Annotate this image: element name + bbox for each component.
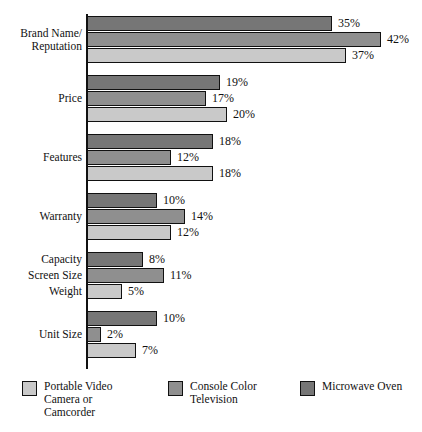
bar[interactable] <box>87 48 346 63</box>
bar-row: 17% <box>87 91 422 106</box>
bar[interactable] <box>87 32 381 47</box>
bar[interactable] <box>87 16 332 31</box>
bar[interactable] <box>87 268 164 283</box>
legend-swatch-icon <box>300 381 315 396</box>
bar-group-label: Warranty <box>0 210 82 223</box>
bar-row: 14% <box>87 209 422 224</box>
bar[interactable] <box>87 150 171 165</box>
bar-row: 5% <box>87 284 422 299</box>
bar-group-label: Price <box>0 92 82 105</box>
bar-value-label: 14% <box>191 209 213 224</box>
bar-value-label: 10% <box>163 193 185 208</box>
bar-row: 10% <box>87 193 422 208</box>
bar[interactable] <box>87 327 101 342</box>
bar-row: 37% <box>87 48 422 63</box>
bar-row: 11% <box>87 268 422 283</box>
bar-row-label: Screen Size <box>0 268 82 283</box>
bar[interactable] <box>87 75 220 90</box>
bar-row-label: Weight <box>0 284 82 299</box>
bar-value-label: 2% <box>107 327 123 342</box>
bar-row: 8% <box>87 252 422 267</box>
bar[interactable] <box>87 107 227 122</box>
bar-row: 12% <box>87 225 422 240</box>
bar-row: 19% <box>87 75 422 90</box>
bar-group: Price19%17%20% <box>0 75 422 122</box>
bar-value-label: 42% <box>387 32 409 47</box>
bar[interactable] <box>87 209 185 224</box>
legend-label: Microwave Oven <box>322 380 402 393</box>
chart-legend: Portable Video Camera or CamcorderConsol… <box>0 380 422 428</box>
bar-row: 7% <box>87 343 422 358</box>
bar[interactable] <box>87 343 136 358</box>
bar-row: 35% <box>87 16 422 31</box>
bar-row: 2% <box>87 327 422 342</box>
bar[interactable] <box>87 166 213 181</box>
bar-value-label: 5% <box>128 284 144 299</box>
cropped-caption-sliver <box>18 426 418 432</box>
bar[interactable] <box>87 193 157 208</box>
bar[interactable] <box>87 311 157 326</box>
bar-group-label: Brand Name/ Reputation <box>0 27 82 53</box>
bar-value-label: 11% <box>170 268 192 283</box>
legend-item[interactable]: Microwave Oven <box>300 380 422 396</box>
legend-label: Console Color Television <box>190 380 257 406</box>
bar-group: Features18%12%18% <box>0 134 422 181</box>
legend-swatch-icon <box>22 381 37 396</box>
legend-label: Portable Video Camera or Camcorder <box>44 380 112 419</box>
bar-group: Brand Name/ Reputation35%42%37% <box>0 16 422 63</box>
bar-group-label: Unit Size <box>0 328 82 341</box>
bar-row: 12% <box>87 150 422 165</box>
legend-item[interactable]: Console Color Television <box>168 380 298 406</box>
bar-value-label: 19% <box>226 75 248 90</box>
grouped-bar-chart: Brand Name/ Reputation35%42%37%Price19%1… <box>0 0 422 432</box>
bar-value-label: 12% <box>177 150 199 165</box>
bar-row: 18% <box>87 166 422 181</box>
bar-value-label: 12% <box>177 225 199 240</box>
bar-row: 10% <box>87 311 422 326</box>
bar[interactable] <box>87 252 143 267</box>
bar-group: CapacityScreen SizeWeight8%11%5% <box>0 252 422 299</box>
bar-value-label: 37% <box>352 48 374 63</box>
bar-group-label: Features <box>0 151 82 164</box>
bar[interactable] <box>87 225 171 240</box>
legend-item[interactable]: Portable Video Camera or Camcorder <box>22 380 167 419</box>
bar[interactable] <box>87 284 122 299</box>
bar-value-label: 10% <box>163 311 185 326</box>
bar-row-label: Capacity <box>0 252 82 267</box>
bar-value-label: 7% <box>142 343 158 358</box>
plot-area: Brand Name/ Reputation35%42%37%Price19%1… <box>0 0 422 374</box>
bar-row: 20% <box>87 107 422 122</box>
legend-swatch-icon <box>168 381 183 396</box>
bar-group: Unit Size10%2%7% <box>0 311 422 358</box>
bar-value-label: 18% <box>219 166 241 181</box>
bar-row: 42% <box>87 32 422 47</box>
bar-row: 18% <box>87 134 422 149</box>
bar-value-label: 17% <box>212 91 234 106</box>
bar-value-label: 20% <box>233 107 255 122</box>
bar[interactable] <box>87 134 213 149</box>
bar-value-label: 18% <box>219 134 241 149</box>
bar-value-label: 35% <box>338 16 360 31</box>
bar-value-label: 8% <box>149 252 165 267</box>
bar-group: Warranty10%14%12% <box>0 193 422 240</box>
bar[interactable] <box>87 91 206 106</box>
